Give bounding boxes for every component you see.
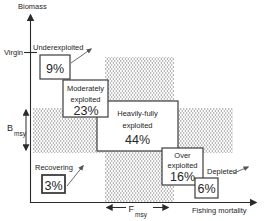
recovering-label: Recovering — [35, 163, 73, 172]
bmsy-label-base: B — [7, 123, 13, 133]
over-exploited-percentage: 16% — [170, 170, 195, 184]
moderately-exploited-label-line1: Moderately — [67, 84, 104, 93]
over-exploited-label-line2: exploited — [167, 161, 197, 170]
depleted-label: Depleted — [207, 167, 237, 176]
x-axis-label: Fishing mortality — [192, 206, 247, 215]
stock-status-diagram: Underexploited 9% Moderately exploited 2… — [0, 0, 269, 221]
heavily-fully-exploited-label-line2: exploited — [122, 121, 152, 130]
fmsy-label-subscript: msy — [135, 211, 148, 219]
underexploited-label: Underexploited — [33, 43, 83, 52]
heavily-fully-exploited-percentage: 44% — [125, 133, 150, 147]
virgin-label: Virgin — [4, 48, 23, 57]
bmsy-label-subscript: msy — [14, 130, 27, 138]
depleted-percentage: 6% — [197, 182, 215, 196]
over-exploited-label-line1: Over — [174, 151, 191, 160]
heavily-fully-exploited-label-line1: Heavily-fully — [117, 109, 158, 118]
moderately-exploited-label-line2: exploited — [70, 95, 100, 104]
diagram-canvas: Underexploited 9% Moderately exploited 2… — [0, 0, 269, 221]
moderately-exploited-percentage: 23% — [73, 104, 98, 118]
fmsy-label-base: F — [129, 204, 135, 214]
underexploited-percentage: 9% — [46, 62, 64, 76]
y-axis-label: Biomass — [18, 2, 47, 11]
recovering-percentage: 3% — [44, 179, 62, 193]
